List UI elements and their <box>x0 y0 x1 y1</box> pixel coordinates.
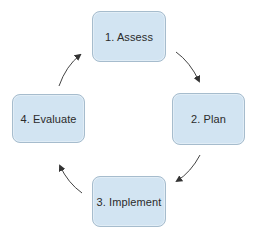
node-evaluate: 4. Evaluate <box>12 94 85 143</box>
arrow-plan-to-implement <box>177 155 200 181</box>
node-assess-label: 1. Assess <box>105 31 153 43</box>
node-implement: 3. Implement <box>92 176 166 227</box>
node-plan: 2. Plan <box>172 93 245 145</box>
node-implement-label: 3. Implement <box>97 196 162 208</box>
arrow-evaluate-to-assess <box>59 55 80 86</box>
node-assess: 1. Assess <box>92 11 166 62</box>
node-evaluate-label: 4. Evaluate <box>20 113 76 125</box>
arrow-implement-to-evaluate <box>60 166 82 193</box>
arrow-assess-to-plan <box>176 52 199 81</box>
node-plan-label: 2. Plan <box>191 113 226 125</box>
cycle-diagram: 1. Assess 2. Plan 3. Implement 4. Evalua… <box>0 0 254 241</box>
